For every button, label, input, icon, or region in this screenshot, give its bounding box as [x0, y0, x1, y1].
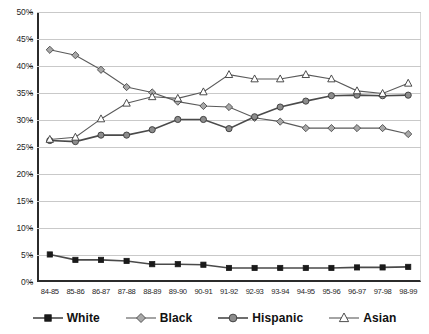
data-point-black — [379, 125, 386, 132]
data-point-asian — [97, 115, 104, 122]
y-axis-tick-mark — [29, 120, 33, 121]
line-chart: 0%5%10%15%20%25%30%35%40%45%50% 84-8585-… — [0, 0, 429, 334]
data-point-asian — [200, 88, 207, 95]
data-point-white — [150, 262, 155, 267]
legend-item-asian[interactable]: Asian — [329, 311, 396, 325]
data-point-white — [252, 265, 257, 270]
data-point-hispanic — [124, 132, 130, 138]
legend-label: White — [67, 311, 100, 325]
y-axis-tick-mark — [29, 12, 33, 13]
data-point-white — [98, 257, 103, 262]
data-point-hispanic — [252, 114, 258, 120]
data-point-hispanic — [303, 98, 309, 104]
legend-item-white[interactable]: White — [33, 311, 100, 325]
x-axis-tick-label: 97-98 — [374, 287, 392, 296]
data-point-white — [329, 265, 334, 270]
data-point-black — [46, 46, 53, 53]
data-point-white — [354, 265, 359, 270]
data-point-black — [353, 125, 360, 132]
x-axis-tick-label: 88-89 — [143, 287, 161, 296]
y-axis-tick-mark — [29, 147, 33, 148]
plot-area — [37, 12, 421, 282]
data-point-white — [278, 265, 283, 270]
x-axis-tick-label: 89-90 — [169, 287, 187, 296]
data-point-asian — [225, 71, 232, 78]
data-point-hispanic — [175, 116, 181, 122]
x-axis-tick-label: 93-94 — [271, 287, 289, 296]
y-axis-tick-mark — [29, 228, 33, 229]
y-axis-tick-mark — [29, 66, 33, 67]
x-axis-tick-label: 84-85 — [41, 287, 59, 296]
x-axis-tick-label: 85-86 — [66, 287, 84, 296]
data-point-hispanic — [328, 93, 334, 99]
y-axis-tick-mark — [29, 39, 33, 40]
data-point-black — [405, 130, 412, 137]
data-point-asian — [405, 79, 412, 86]
x-axis-tick-label: 94-95 — [297, 287, 315, 296]
legend-label: Black — [160, 311, 193, 325]
data-point-white — [201, 262, 206, 267]
data-point-black — [72, 52, 79, 59]
data-point-black — [277, 118, 284, 125]
filled-square-marker — [33, 311, 63, 325]
data-point-white — [380, 265, 385, 270]
x-axis-tick-label: 90-91 — [194, 287, 212, 296]
chart-legend: WhiteBlackHispanicAsian — [0, 306, 429, 330]
data-point-asian — [353, 87, 360, 94]
open-triangle-marker — [329, 311, 359, 325]
legend-label: Asian — [363, 311, 396, 325]
x-axis-tick-label: 98-99 — [399, 287, 417, 296]
y-axis-tick-mark — [29, 174, 33, 175]
y-axis: 0%5%10%15%20%25%30%35%40%45%50% — [0, 12, 33, 282]
data-point-white — [47, 252, 52, 257]
data-point-white — [226, 265, 231, 270]
x-axis-tick-label: 86-87 — [92, 287, 110, 296]
data-point-black — [225, 103, 232, 110]
x-axis-tick-label: 96-97 — [348, 287, 366, 296]
data-point-white — [124, 258, 129, 263]
data-point-black — [328, 125, 335, 132]
series-layer — [37, 12, 421, 282]
data-point-hispanic — [98, 132, 104, 138]
gray-diamond-marker — [126, 311, 156, 325]
x-axis: 84-8585-8686-8787-8888-8989-9090-9191-92… — [37, 287, 421, 303]
legend-label: Hispanic — [252, 311, 303, 325]
x-axis-tick-label: 87-88 — [118, 287, 136, 296]
y-axis-tick-mark — [29, 201, 33, 202]
data-point-asian — [302, 71, 309, 78]
data-point-white — [175, 262, 180, 267]
data-point-hispanic — [226, 126, 232, 132]
y-axis-tick-mark — [29, 255, 33, 256]
data-point-hispanic — [277, 104, 283, 110]
data-point-white — [303, 265, 308, 270]
data-point-white — [73, 257, 78, 262]
legend-item-hispanic[interactable]: Hispanic — [218, 311, 303, 325]
x-axis-tick-label: 92-93 — [246, 287, 264, 296]
legend-item-black[interactable]: Black — [126, 311, 193, 325]
data-point-black — [123, 83, 130, 90]
x-axis-tick-label: 91-92 — [220, 287, 238, 296]
gray-circle-marker — [218, 311, 248, 325]
y-axis-tick-mark — [29, 282, 33, 283]
data-point-hispanic — [405, 92, 411, 98]
data-point-asian — [72, 133, 79, 140]
data-point-black — [302, 125, 309, 132]
data-point-hispanic — [200, 116, 206, 122]
data-point-hispanic — [149, 127, 155, 133]
x-axis-tick-label: 95-96 — [322, 287, 340, 296]
data-point-white — [406, 264, 411, 269]
y-axis-tick-mark — [29, 93, 33, 94]
data-point-black — [200, 102, 207, 109]
data-point-black — [97, 66, 104, 73]
